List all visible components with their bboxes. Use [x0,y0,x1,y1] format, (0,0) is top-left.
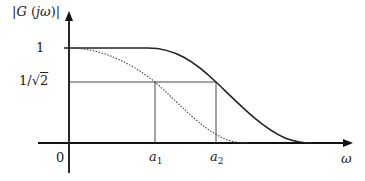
x-tick-label-a1: a1 [149,150,163,166]
dotted-response-curve [69,48,248,143]
y-axis-arrowhead-icon [65,11,73,21]
frequency-response-diagram [0,0,365,181]
x-axis-arrowhead-icon [343,139,353,147]
origin-label: 0 [56,151,64,164]
y-tick-label-one: 1 [36,41,44,54]
x-tick-label-a2: a2 [210,150,224,166]
y-tick-label-inv-sqrt2: 1/√2 [19,74,48,87]
x-axis-label: ω [341,152,352,165]
solid-response-curve [69,48,312,143]
y-axis-label: |G (jω)| [12,5,60,18]
